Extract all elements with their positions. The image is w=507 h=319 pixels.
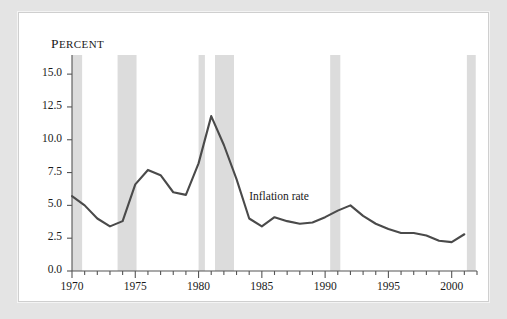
y-axis-tick-label: 7.5 (28, 165, 62, 177)
x-axis-tick-label: 1985 (242, 280, 282, 292)
recession-band (72, 55, 82, 271)
y-axis-tick-label: 15.0 (28, 66, 62, 78)
y-axis-tick-label: 12.5 (28, 99, 62, 111)
y-axis-tick-label: 2.5 (28, 230, 62, 242)
x-axis-tick-label: 1970 (52, 280, 92, 292)
recession-band (330, 55, 340, 271)
x-axis-tick-label: 1980 (179, 280, 219, 292)
y-axis-tick-label: 5.0 (28, 197, 62, 209)
recession-band (118, 55, 137, 271)
x-axis-tick-label: 1995 (368, 280, 408, 292)
y-axis-tick-label: 10.0 (28, 132, 62, 144)
inflation-rate-line-chart (19, 13, 490, 303)
figure-frame: PERCENT 0.02.55.07.510.012.515.019701975… (0, 0, 507, 319)
y-axis-tick-label: 0.0 (28, 263, 62, 275)
x-axis-tick-label: 1975 (115, 280, 155, 292)
x-axis-tick-label: 2000 (432, 280, 472, 292)
series-annotation-inflation-rate: Inflation rate (249, 190, 309, 202)
x-axis-tick-label: 1990 (305, 280, 345, 292)
chart-plot-area: PERCENT 0.02.55.07.510.012.515.019701975… (19, 13, 490, 303)
recession-band (467, 55, 476, 271)
figure-panel: PERCENT 0.02.55.07.510.012.515.019701975… (18, 12, 489, 302)
